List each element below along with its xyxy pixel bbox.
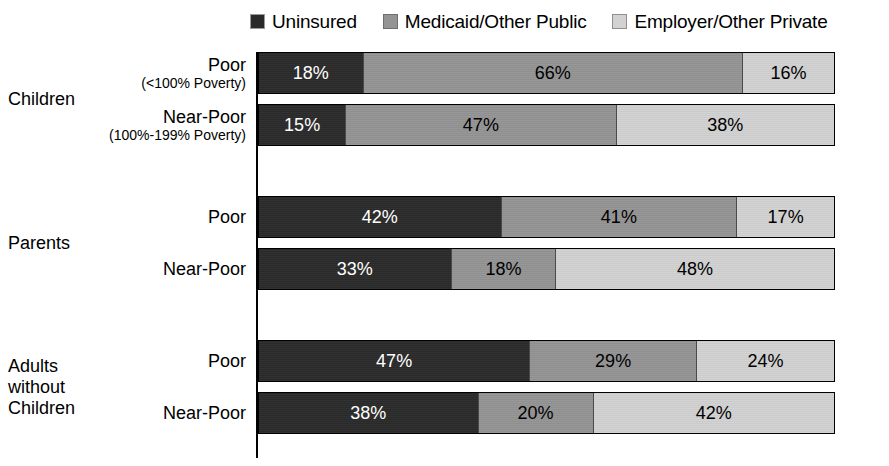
row-label-sub: (<100% Poverty) [16,75,246,91]
stacked-bar: 47%29%24% [258,340,835,382]
bar-segment-value: 38% [350,403,386,424]
row-label: Near-Poor [16,403,246,423]
bar-segment-medicaid-other-public: 66% [363,53,743,93]
legend-item-employer-other-private: Employer/Other Private [612,12,827,31]
bar-row: Near-Poor38%20%42% [0,392,889,434]
bar-segment-value: 41% [601,207,637,228]
legend-swatch-medicaid-other-public [383,14,398,29]
bar-segment-value: 48% [677,259,713,280]
bar-segment-employer-other-private: 24% [696,341,834,381]
row-label: Near-Poor(100%-199% Poverty) [16,107,246,143]
stacked-bar-chart: Uninsured Medicaid/Other Public Employer… [0,0,889,466]
bar-segment-value: 42% [362,207,398,228]
bar-segment-employer-other-private: 17% [736,197,834,237]
bar-row: Near-Poor33%18%48% [0,248,889,290]
bar-segment-value: 24% [747,351,783,372]
bar-segment-medicaid-other-public: 18% [451,249,556,289]
bar-segment-uninsured: 42% [259,197,501,237]
bar-row: Near-Poor(100%-199% Poverty)15%47%38% [0,104,889,146]
bar-segment-value: 47% [376,351,412,372]
bar-group: ParentsPoor42%41%17%Near-Poor33%18%48% [0,196,889,290]
bar-segment-medicaid-other-public: 20% [478,393,593,433]
bar-segment-value: 17% [768,207,804,228]
row-label: Poor [16,207,246,227]
bar-segment-value: 15% [284,115,320,136]
bar-row: Poor42%41%17% [0,196,889,238]
chart-legend: Uninsured Medicaid/Other Public Employer… [250,8,889,34]
stacked-bar: 15%47%38% [258,104,835,146]
stacked-bar: 38%20%42% [258,392,835,434]
plot-area: ChildrenPoor(<100% Poverty)18%66%16%Near… [0,44,889,466]
bar-segment-employer-other-private: 16% [742,53,834,93]
bar-segment-value: 20% [517,403,553,424]
bar-segment-value: 29% [595,351,631,372]
bar-segment-value: 42% [696,403,732,424]
legend-swatch-uninsured [250,14,265,29]
row-label-main: Near-Poor [16,259,246,279]
bar-segment-value: 66% [535,63,571,84]
legend-item-medicaid-other-public: Medicaid/Other Public [383,12,587,31]
bar-segment-uninsured: 18% [259,53,363,93]
bar-segment-medicaid-other-public: 29% [529,341,696,381]
bar-segment-uninsured: 33% [259,249,451,289]
bar-segment-value: 47% [463,115,499,136]
bar-segment-value: 33% [337,259,373,280]
bar-segment-employer-other-private: 48% [555,249,834,289]
row-label-main: Poor [16,55,246,75]
bar-segment-medicaid-other-public: 47% [345,105,615,145]
legend-item-uninsured: Uninsured [250,12,357,31]
bar-group: AdultswithoutChildrenPoor47%29%24%Near-P… [0,340,889,434]
bar-group: ChildrenPoor(<100% Poverty)18%66%16%Near… [0,52,889,146]
bar-segment-value: 18% [485,259,521,280]
bar-segment-employer-other-private: 38% [616,105,835,145]
row-label: Poor [16,351,246,371]
row-label-main: Poor [16,207,246,227]
bar-row: Poor47%29%24% [0,340,889,382]
bar-segment-uninsured: 38% [259,393,478,433]
row-label-sub: (100%-199% Poverty) [16,127,246,143]
bar-segment-employer-other-private: 42% [593,393,835,433]
legend-label-employer-other-private: Employer/Other Private [634,12,827,31]
stacked-bar: 42%41%17% [258,196,835,238]
legend-swatch-employer-other-private [612,14,627,29]
row-label-main: Near-Poor [16,403,246,423]
row-label-main: Near-Poor [16,107,246,127]
legend-label-uninsured: Uninsured [272,12,357,31]
legend-label-medicaid-other-public: Medicaid/Other Public [405,12,587,31]
bar-segment-value: 16% [770,63,806,84]
row-label-main: Poor [16,351,246,371]
stacked-bar: 33%18%48% [258,248,835,290]
bar-segment-uninsured: 47% [259,341,529,381]
bar-segment-medicaid-other-public: 41% [501,197,737,237]
bar-row: Poor(<100% Poverty)18%66%16% [0,52,889,94]
stacked-bar: 18%66%16% [258,52,835,94]
row-label: Near-Poor [16,259,246,279]
bar-segment-uninsured: 15% [259,105,345,145]
row-label: Poor(<100% Poverty) [16,55,246,91]
bar-segment-value: 18% [293,63,329,84]
bar-segment-value: 38% [707,115,743,136]
